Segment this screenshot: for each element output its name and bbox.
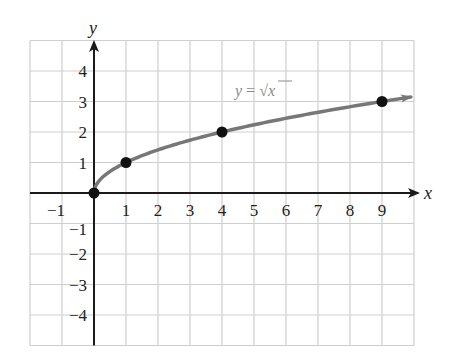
x-tick-label: 2 <box>154 201 163 220</box>
y-tick-label: −1 <box>69 220 87 239</box>
y-tick-label: −3 <box>69 276 87 295</box>
x-tick-label: 8 <box>346 201 355 220</box>
y-tick-label: −2 <box>69 245 87 264</box>
x-tick-label: 7 <box>314 201 323 220</box>
data-point <box>121 157 132 168</box>
sqrt-curve <box>94 97 411 193</box>
y-tick-label: −4 <box>69 306 88 325</box>
data-points <box>89 96 388 199</box>
y-tick-label: 3 <box>79 93 88 112</box>
x-axis-label: x <box>423 183 432 203</box>
x-tick-label: 6 <box>282 201 291 220</box>
x-tick-label: 5 <box>250 201 259 220</box>
equation-label: y = √x <box>233 82 275 100</box>
x-tick-label: 1 <box>122 201 131 220</box>
x-tick-label: −1 <box>47 201 65 220</box>
x-tick-label: 9 <box>378 201 387 220</box>
y-axis-label: y <box>87 18 97 38</box>
y-tick-label: 4 <box>79 62 88 81</box>
y-tick-label: 1 <box>79 154 88 173</box>
data-point <box>89 188 100 199</box>
sqrt-function-graph: −1123456789−4−3−2−11234 x y y = √x <box>0 0 451 353</box>
data-point <box>217 127 228 138</box>
axes <box>30 42 418 346</box>
x-tick-label: 3 <box>186 201 195 220</box>
x-tick-label: 4 <box>218 201 227 220</box>
y-tick-label: 2 <box>79 123 88 142</box>
data-point <box>377 96 388 107</box>
